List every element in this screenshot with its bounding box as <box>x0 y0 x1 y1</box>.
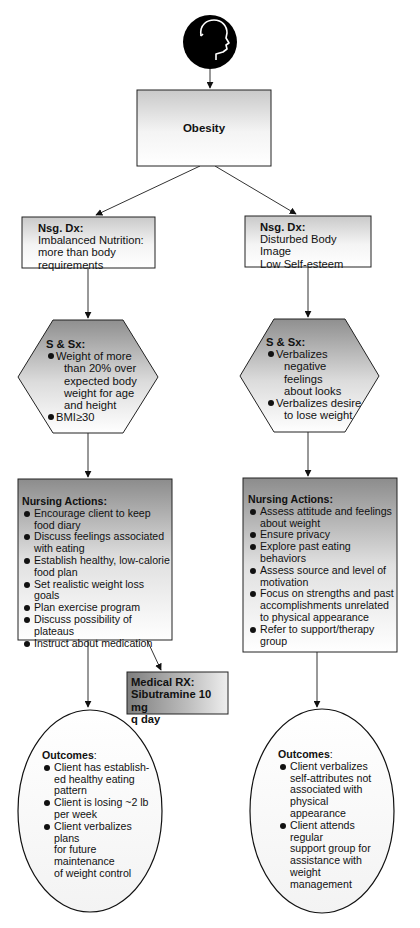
nursing-action-item: Explore past eating behaviors <box>248 541 398 565</box>
nursing-diagnosis-right-line: Disturbed Body Image <box>260 233 370 257</box>
outcomes-left: Outcomes: Client has establish- ed healt… <box>42 750 158 880</box>
problem-label: Obesity <box>183 122 225 134</box>
nursing-action-item: Refer to support/therapy group <box>248 624 398 648</box>
medical-rx-line: q day <box>131 713 227 725</box>
signs-symptoms-item: Weight of more than 20% over expected bo… <box>46 350 142 411</box>
nursing-diagnosis-left-line: requirements <box>38 259 150 271</box>
nursing-action-item: Focus on strengths and past accomplishme… <box>248 588 398 623</box>
head-profile-icon <box>183 15 237 69</box>
signs-symptoms-right: S & Sx: Verbalizes negative feelings abo… <box>266 336 364 421</box>
nursing-actions-right: Nursing Actions: Assess attitude and fee… <box>248 494 398 647</box>
medical-rx-box: Medical RX: Sibutramine 10 mg q day <box>131 676 227 726</box>
signs-symptoms-item: BMI≥30 <box>46 411 142 423</box>
signs-symptoms-item: Verbalizes negative feelings about looks <box>266 348 364 397</box>
nursing-action-item: Discuss possibility of plateaus <box>22 614 172 638</box>
problem-box: Obesity <box>137 90 271 166</box>
nursing-action-item: Encourage client to keep food diary <box>22 508 172 532</box>
outcome-item: Client has establish- ed healthy eating … <box>42 762 158 797</box>
nursing-action-item: Establish healthy, low-calorie food plan <box>22 555 172 579</box>
nursing-action-item: Assess source and level of motivation <box>248 565 398 589</box>
medical-rx-title: Medical RX: <box>131 676 227 688</box>
nursing-action-item: Assess attitude and feelings about weigh… <box>248 506 398 530</box>
nursing-action-item: Discuss feelings associated with eating <box>22 531 172 555</box>
nursing-action-item: Set realistic weight loss goals <box>22 579 172 603</box>
nursing-diagnosis-right-line: Low Self-esteem <box>260 258 370 270</box>
outcomes-right: Outcomes: Client verbalizes self-attribu… <box>278 749 384 891</box>
nursing-diagnosis-right-title: Nsg. Dx: <box>260 221 370 233</box>
nursing-diagnosis-left-line: Imbalanced Nutrition: <box>38 234 150 246</box>
signs-symptoms-left-title: S & Sx: <box>46 338 142 350</box>
nursing-diagnosis-left-line: more than body <box>38 246 150 258</box>
nursing-actions-left: Nursing Actions: Encourage client to kee… <box>22 496 172 649</box>
nursing-action-item: Instruct about medication <box>22 638 172 650</box>
medical-rx-line: Sibutramine 10 mg <box>131 688 227 713</box>
signs-symptoms-left: S & Sx: Weight of more than 20% over exp… <box>46 338 142 423</box>
nursing-diagnosis-right: Nsg. Dx: Disturbed Body Image Low Self-e… <box>260 221 370 270</box>
signs-symptoms-right-title: S & Sx: <box>266 336 364 348</box>
nursing-diagnosis-left: Nsg. Dx: Imbalanced Nutrition: more than… <box>38 222 150 271</box>
outcome-item: Client is losing ~2 lb per week <box>42 797 158 821</box>
outcome-item: Client verbalizes self-attributes not as… <box>278 761 384 820</box>
nursing-diagnosis-left-title: Nsg. Dx: <box>38 222 150 234</box>
outcome-item: Client verbalizes plans for future maint… <box>42 821 158 880</box>
signs-symptoms-item: Verbalizes desire to lose weight <box>266 397 364 421</box>
outcome-item: Client attends regular support group for… <box>278 820 384 891</box>
